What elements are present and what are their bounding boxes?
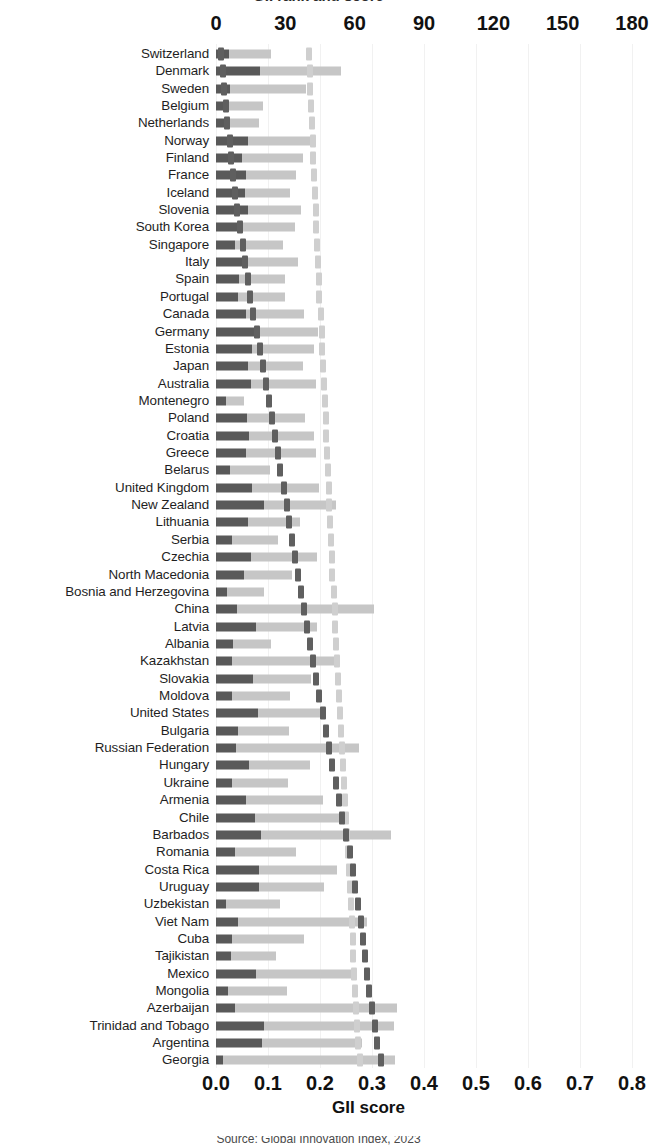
row-label-sweden: Sweden <box>0 82 209 96</box>
dashed-marker-dark <box>230 169 236 182</box>
row-label-france: France <box>0 168 209 182</box>
bar-segment-dark <box>216 518 248 527</box>
bar-segment-light <box>226 396 244 405</box>
row-label-slovenia: Slovenia <box>0 203 209 217</box>
bar-segment-light <box>244 570 293 579</box>
dashed-marker-dark <box>223 99 229 112</box>
figure-caption-cropped: Source: Global Innovation Index, 2023 <box>0 1136 637 1145</box>
bar-segment-dark <box>216 1004 235 1013</box>
dashed-marker-dark <box>347 846 353 859</box>
row-label-mongolia: Mongolia <box>0 984 209 998</box>
bar-segment-dark <box>216 379 251 388</box>
bar-segment-light <box>260 67 341 76</box>
bar-segment-dark <box>216 553 251 562</box>
row-label-chile: Chile <box>0 811 209 825</box>
dashed-marker-light <box>348 898 354 911</box>
dashed-marker-dark <box>232 186 238 199</box>
row-label-portugal: Portugal <box>0 290 209 304</box>
dashed-marker-dark <box>366 985 372 998</box>
row-label-belgium: Belgium <box>0 99 209 113</box>
figure-title-cropped: GII rank and score <box>0 0 637 9</box>
dashed-marker-dark <box>372 1019 378 1032</box>
bar-segment-light <box>235 848 296 857</box>
dashed-marker-light <box>310 151 316 164</box>
row-label-georgia: Georgia <box>0 1053 209 1067</box>
bar-segment-dark <box>216 431 249 440</box>
bar-segment-light <box>245 188 290 197</box>
row-label-netherlands: Netherlands <box>0 116 209 130</box>
dashed-marker-dark <box>329 759 335 772</box>
dashed-marker-light <box>307 65 313 78</box>
bar-segment-light <box>246 449 316 458</box>
bottom-axis-tick: 0.2 <box>306 1072 334 1095</box>
dashed-marker-light <box>316 273 322 286</box>
row-label-japan: Japan <box>0 359 209 373</box>
dashed-marker-light <box>354 1019 360 1032</box>
bar-segment-dark <box>216 848 235 857</box>
row-label-lithuania: Lithuania <box>0 515 209 529</box>
row-label-uruguay: Uruguay <box>0 880 209 894</box>
bar-segment-light <box>230 84 307 93</box>
bar-segment-dark <box>216 796 246 805</box>
bar-segment-dark <box>216 934 232 943</box>
dashed-marker-light <box>325 464 331 477</box>
bar-segment-light <box>259 865 337 874</box>
bottom-axis-tick: 0.7 <box>566 1072 594 1095</box>
dashed-marker-light <box>306 47 312 60</box>
bar-segment-dark <box>216 900 226 909</box>
row-label-canada: Canada <box>0 307 209 321</box>
bottom-axis: 0.00.10.20.30.40.50.60.70.8 <box>0 1072 637 1100</box>
dashed-marker-dark <box>374 1037 380 1050</box>
bar-segment-light <box>232 535 278 544</box>
dashed-marker-light <box>337 707 343 720</box>
bar-segment-dark <box>216 240 235 249</box>
figure-title-text: GII rank and score <box>0 0 637 4</box>
bar-segment-light <box>238 917 367 926</box>
dashed-marker-light <box>341 776 347 789</box>
row-label-ukraine: Ukraine <box>0 776 209 790</box>
bar-segment-dark <box>216 292 238 301</box>
dashed-marker-light <box>349 915 355 928</box>
bar-segment-light <box>264 501 336 510</box>
dashed-marker-dark <box>355 898 361 911</box>
dashed-marker-dark <box>362 950 368 963</box>
bar-segment-dark <box>216 813 255 822</box>
dashed-marker-light <box>338 724 344 737</box>
dashed-marker-light <box>319 325 325 338</box>
row-label-finland: Finland <box>0 151 209 165</box>
bar-segment-dark <box>216 327 256 336</box>
bar-segment-light <box>230 466 270 475</box>
top-axis-tick: 30 <box>274 12 296 35</box>
dashed-marker-light <box>327 516 333 529</box>
dashed-marker-dark <box>227 134 233 147</box>
bottom-axis-tick: 0.8 <box>618 1072 646 1095</box>
top-axis-tick: 120 <box>477 12 510 35</box>
dashed-marker-light <box>323 429 329 442</box>
bar-segment-light <box>248 518 300 527</box>
bar-segment-light <box>247 414 305 423</box>
bar-segment-light <box>226 900 280 909</box>
dashed-marker-dark <box>343 828 349 841</box>
row-label-costa-rica: Costa Rica <box>0 863 209 877</box>
dashed-marker-light <box>332 620 338 633</box>
dashed-marker-dark <box>304 620 310 633</box>
dashed-marker-dark <box>242 256 248 269</box>
bar-segment-dark <box>216 1039 262 1048</box>
bar-segment-dark <box>216 188 245 197</box>
bar-segment-light <box>262 1039 362 1048</box>
bar-segment-dark <box>216 275 239 284</box>
dashed-marker-light <box>315 256 321 269</box>
dashed-marker-light <box>332 603 338 616</box>
bottom-axis-tick: 0.6 <box>514 1072 542 1095</box>
bottom-axis-title-text: GII score <box>332 1098 405 1118</box>
row-label-tajikistan: Tajikistan <box>0 949 209 963</box>
bar-segment-dark <box>216 692 232 701</box>
row-label-norway: Norway <box>0 134 209 148</box>
dashed-marker-light <box>314 238 320 251</box>
dashed-marker-dark <box>266 394 272 407</box>
dashed-marker-dark <box>284 499 290 512</box>
bottom-axis-tick: 0.3 <box>358 1072 386 1095</box>
dashed-marker-light <box>335 672 341 685</box>
dashed-marker-light <box>312 186 318 199</box>
bar-segment-light <box>228 987 286 996</box>
